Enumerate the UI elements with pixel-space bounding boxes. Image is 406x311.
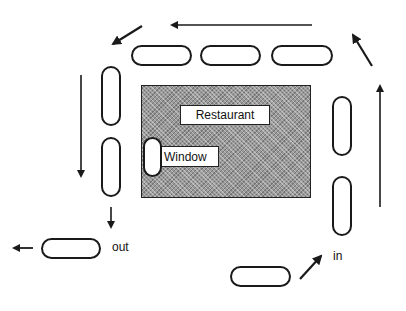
- exit-car: [41, 238, 101, 259]
- top-left-corner-arrow-icon: [113, 26, 142, 44]
- top-lane-car-middle: [200, 45, 261, 66]
- entry-label: in: [333, 249, 342, 263]
- top-lane-car-right: [271, 45, 333, 66]
- window-label: Window: [158, 146, 219, 167]
- left-lane-car-lower: [101, 137, 121, 197]
- drive-through-diagram: Restaurant Window out in: [0, 0, 406, 311]
- entry-car: [230, 266, 291, 287]
- restaurant-building: [141, 85, 311, 198]
- right-lane-car-lower: [332, 176, 352, 236]
- restaurant-label: Restaurant: [180, 105, 270, 125]
- right-lane-car-upper: [332, 96, 352, 156]
- left-lane-car-upper: [101, 66, 121, 126]
- top-lane-car-left: [131, 45, 192, 66]
- entry-arrow-icon: [300, 256, 321, 279]
- restaurant-label-text: Restaurant: [196, 108, 255, 122]
- window-label-text: Window: [164, 150, 207, 164]
- window-car: [143, 137, 162, 177]
- exit-label: out: [112, 240, 129, 254]
- top-right-corner-arrow-icon: [353, 35, 372, 66]
